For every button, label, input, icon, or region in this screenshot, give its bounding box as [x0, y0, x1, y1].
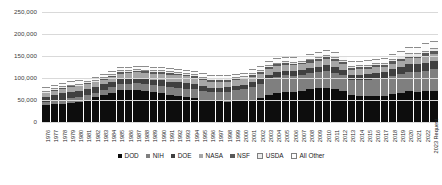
- bar-column[interactable]: [273, 12, 280, 122]
- bar-segment-nih: [174, 88, 181, 96]
- legend-item-other[interactable]: All Other: [291, 153, 325, 160]
- bar-segment-dod: [290, 92, 297, 122]
- bar-segment-nih: [315, 72, 322, 88]
- legend-item-doe[interactable]: DOE: [171, 153, 192, 159]
- legend-swatch-doe-icon: [171, 154, 176, 159]
- bar-column[interactable]: [430, 12, 437, 122]
- bar-column[interactable]: [158, 12, 165, 122]
- bar-segment-dod: [51, 104, 58, 122]
- bar-segment-nih: [199, 91, 206, 100]
- y-axis-tick-label: 250,000: [14, 9, 37, 15]
- bar-segment-nasa: [158, 74, 165, 81]
- bar-column[interactable]: [282, 12, 289, 122]
- bar-column[interactable]: [166, 12, 173, 122]
- bar-column[interactable]: [67, 12, 74, 122]
- bar-column[interactable]: [356, 12, 363, 122]
- bar-column[interactable]: [323, 12, 330, 122]
- legend-label: DOE: [178, 153, 192, 159]
- bar-column[interactable]: [397, 12, 404, 122]
- gridline: [42, 56, 438, 57]
- bar-segment-dod: [331, 89, 338, 122]
- bar-column[interactable]: [199, 12, 206, 122]
- bar-segment-dod: [323, 88, 330, 122]
- bar-column[interactable]: [125, 12, 132, 122]
- bar-column[interactable]: [381, 12, 388, 122]
- bar-segment-dod: [84, 100, 91, 122]
- bar-column[interactable]: [298, 12, 305, 122]
- bar-column[interactable]: [232, 12, 239, 122]
- x-axis-tick-label: 2023 Request: [434, 119, 440, 154]
- bar-column[interactable]: [265, 12, 272, 122]
- bar-column[interactable]: [75, 12, 82, 122]
- bar-column[interactable]: [216, 12, 223, 122]
- legend-item-usda[interactable]: USDA: [257, 153, 284, 160]
- legend-swatch-dod-icon: [118, 154, 123, 159]
- legend-swatch-nasa-icon: [199, 154, 204, 159]
- bar-segment-nih: [150, 85, 157, 92]
- bar-column[interactable]: [84, 12, 91, 122]
- bar-segment-nih: [372, 79, 379, 96]
- bar-segment-nih: [158, 86, 165, 93]
- bar-column[interactable]: [348, 12, 355, 122]
- bar-column[interactable]: [92, 12, 99, 122]
- bar-segment-doe: [84, 89, 91, 96]
- bar-column[interactable]: [141, 12, 148, 122]
- gridline: [42, 34, 438, 35]
- bar-column[interactable]: [108, 12, 115, 122]
- bar-column[interactable]: [224, 12, 231, 122]
- legend-item-dod[interactable]: DOD: [118, 153, 139, 159]
- bar-column[interactable]: [422, 12, 429, 122]
- bar-column[interactable]: [183, 12, 190, 122]
- bar-segment-doe: [430, 61, 437, 69]
- bar-column[interactable]: [42, 12, 49, 122]
- bar-column[interactable]: [405, 12, 412, 122]
- bar-column[interactable]: [59, 12, 66, 122]
- bar-segment-dod: [306, 89, 313, 122]
- bar-column[interactable]: [133, 12, 140, 122]
- bar-column[interactable]: [117, 12, 124, 122]
- bar-column[interactable]: [331, 12, 338, 122]
- bar-segment-doe: [75, 91, 82, 98]
- y-axis-tick-label: 0: [33, 119, 37, 125]
- bar-segment-nih: [183, 89, 190, 97]
- bar-column[interactable]: [100, 12, 107, 122]
- legend-swatch-nih-icon: [146, 154, 151, 159]
- bar-column[interactable]: [315, 12, 322, 122]
- bar-column[interactable]: [191, 12, 198, 122]
- bar-segment-other: [414, 47, 421, 54]
- bar-segment-dod: [67, 103, 74, 122]
- bar-column[interactable]: [207, 12, 214, 122]
- bar-column[interactable]: [372, 12, 379, 122]
- bar-column[interactable]: [51, 12, 58, 122]
- chart-legend: DODNIHDOENASANSFUSDAAll Other: [0, 150, 442, 162]
- bar-column[interactable]: [290, 12, 297, 122]
- legend-label: NSF: [237, 153, 250, 159]
- plot-area: [42, 12, 438, 122]
- bar-column[interactable]: [174, 12, 181, 122]
- bar-column[interactable]: [257, 12, 264, 122]
- bar-column[interactable]: [249, 12, 256, 122]
- bar-column[interactable]: [389, 12, 396, 122]
- bar-segment-nih: [422, 71, 429, 92]
- bar-segment-dod: [199, 100, 206, 122]
- bar-segment-dod: [414, 92, 421, 122]
- legend-item-nsf[interactable]: NSF: [230, 153, 250, 159]
- bar-column[interactable]: [240, 12, 247, 122]
- legend-label: USDA: [266, 153, 284, 159]
- bar-segment-nih: [166, 87, 173, 95]
- bar-segment-nih: [191, 89, 198, 98]
- bar-column[interactable]: [364, 12, 371, 122]
- y-axis-tick-label: 150,000: [14, 53, 37, 59]
- legend-item-nasa[interactable]: NASA: [199, 153, 223, 159]
- bar-column[interactable]: [150, 12, 157, 122]
- bar-column[interactable]: [414, 12, 421, 122]
- bar-segment-doe: [389, 69, 396, 76]
- bar-column[interactable]: [339, 12, 346, 122]
- bar-segment-nih: [348, 80, 355, 95]
- legend-item-nih[interactable]: NIH: [146, 153, 164, 159]
- bar-segment-dod: [397, 93, 404, 122]
- bar-segment-dod: [125, 90, 132, 122]
- bar-segment-nih: [323, 71, 330, 88]
- bar-column[interactable]: [306, 12, 313, 122]
- bar-segment-nih: [331, 73, 338, 89]
